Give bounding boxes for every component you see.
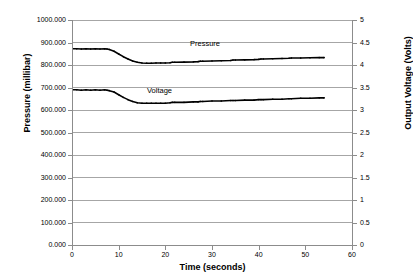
y-axis-left-tick [68,133,72,134]
y-axis-left-tick-label: 600.000 [6,106,66,114]
y-axis-left-tick-label: 500.000 [6,129,66,137]
series-markers-voltage [72,89,325,104]
data-point [319,97,320,98]
y-axis-left-tick-label: 900.000 [6,39,66,47]
data-point [109,49,110,50]
data-point [160,62,161,63]
y-axis-right-tick [353,155,357,156]
x-axis-tick-label: 60 [332,251,372,259]
data-point [272,58,273,59]
data-point [95,48,96,49]
y-axis-right-tick-label: 4.5 [360,39,390,47]
y-axis-right-tick-label: 1.5 [360,174,390,182]
data-point [244,99,245,100]
data-point [183,61,184,62]
data-point [127,58,128,59]
data-point [309,57,310,58]
data-point [200,60,201,61]
data-point [132,60,133,61]
data-point [113,51,114,52]
data-point [104,48,105,49]
x-axis-tick [72,246,73,250]
data-point [76,89,77,90]
data-point [99,90,100,91]
y-axis-right-tick [353,178,357,179]
data-point [113,91,114,92]
data-point [141,103,142,104]
x-axis-tick-label: 0 [52,251,92,259]
gridline [72,155,352,156]
y-axis-right-tick-label: 5 [360,16,390,24]
gridline [72,87,352,88]
data-point [263,99,264,100]
data-point [230,100,231,101]
x-axis-tick [165,246,166,250]
data-point [235,100,236,101]
y-axis-left-tick [68,88,72,89]
data-point [300,98,301,99]
data-point [323,97,324,98]
data-point [169,62,170,63]
data-point [81,48,82,49]
data-point [85,89,86,90]
series-annotation-pressure: Pressure [190,39,220,48]
y-axis-left-tick [68,65,72,66]
y-axis-left-tick [68,110,72,111]
gridline [72,200,352,201]
x-axis-tick-label: 20 [145,251,185,259]
data-point [76,48,77,49]
data-point [151,103,152,104]
data-point [132,101,133,102]
y-axis-right-tick-label: 2.5 [360,129,390,137]
data-point [288,98,289,99]
y-axis-left-tick-label: 800.000 [6,61,66,69]
gridline [72,177,352,178]
y-axis-left-tick-label: 0.000 [6,241,66,249]
y-axis-right-tick [353,245,357,246]
x-axis-tick-label: 50 [285,251,325,259]
plot-area [72,20,352,245]
data-point [221,60,222,61]
y-axis-right-tick-label: 0.5 [360,219,390,227]
x-axis-tick [305,246,306,250]
data-point [232,100,233,101]
data-point [253,59,254,60]
data-point [244,59,245,60]
gridline [72,132,352,133]
data-point [260,58,261,59]
data-point [118,53,119,54]
gridline [72,20,352,21]
data-point [288,58,289,59]
y-axis-right-title: Output Voltage (Volts) [403,0,413,173]
y-axis-left-tick [68,155,72,156]
y-axis-left-tick [68,20,72,21]
data-point [146,103,147,104]
y-axis-left-tick-label: 400.000 [6,151,66,159]
x-axis-tick-label: 40 [239,251,279,259]
chart-container: 0.000100.000200.000300.000400.000500.000… [0,0,413,280]
data-point [85,48,86,49]
y-axis-right-tick-label: 4 [360,61,390,69]
x-axis-tick [259,246,260,250]
y-axis-right-tick [353,20,357,21]
data-point [123,97,124,98]
data-point [183,102,184,103]
x-axis-tick [212,246,213,250]
data-point [160,103,161,104]
data-point [197,101,198,102]
series-annotation-voltage: Voltage [147,86,172,95]
data-point [211,100,212,101]
gridline [72,65,352,66]
data-point [90,90,91,91]
y-axis-left-tick [68,178,72,179]
data-point [155,62,156,63]
data-point [104,89,105,90]
y-axis-left-tick-label: 700.000 [6,84,66,92]
y-axis-left-line [72,20,73,245]
y-axis-right-tick-label: 3 [360,106,390,114]
y-axis-left-tick-label: 1000.000 [6,16,66,24]
data-point [81,90,82,91]
data-point [258,99,259,100]
data-point [263,58,264,59]
data-point [200,101,201,102]
